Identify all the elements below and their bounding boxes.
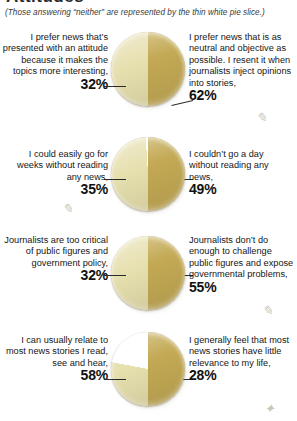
chart-2-pie-disc[interactable] bbox=[111, 137, 185, 211]
chart-1-pie[interactable] bbox=[110, 32, 188, 110]
chart-4-left-percent: 58% bbox=[2, 370, 108, 381]
chart-row-2: I could easily go for weeks without read… bbox=[0, 127, 297, 223]
chart-4-right-percent: 28% bbox=[189, 370, 295, 381]
chart-1-right-label: I prefer news that is as neutral and obj… bbox=[189, 32, 295, 89]
chart-2-right-label: I couldn’t go a day without reading any … bbox=[189, 149, 295, 183]
chart-row-1: I prefer news that’s presented with an a… bbox=[0, 30, 297, 127]
chart-3-right-label-block: Journalists don’t do enough to challenge… bbox=[189, 235, 295, 293]
chart-1-pie-disc[interactable] bbox=[111, 32, 185, 106]
chart-4-right-leader-line bbox=[104, 379, 126, 380]
chart-caption: (Those answering “neither” are represent… bbox=[5, 8, 295, 17]
chart-4-right-label: I generally feel that most news stories … bbox=[189, 335, 295, 369]
chart-1-left-label: I prefer news that’s presented with an a… bbox=[2, 32, 108, 78]
chart-row-3: Journalists are too critical of public f… bbox=[0, 223, 297, 323]
chart-3-left-percent: 32% bbox=[2, 270, 108, 281]
chart-3-left-label-block: Journalists are too critical of public f… bbox=[2, 235, 108, 282]
cropped-title-text: Attitudes bbox=[6, 0, 84, 7]
chart-3-right-label: Journalists don’t do enough to challenge… bbox=[189, 235, 295, 281]
chart-3-pie-disc[interactable] bbox=[111, 236, 185, 310]
chart-2-right-percent: 49% bbox=[189, 184, 295, 195]
chart-row-4: I can usually relate to most news storie… bbox=[0, 323, 297, 421]
decorative-mark-4: ✦ bbox=[264, 401, 275, 416]
chart-2-pie[interactable] bbox=[110, 137, 188, 215]
chart-2-right-label-block: I couldn’t go a day without reading any … bbox=[189, 149, 295, 196]
decorative-mark-1: ✎ bbox=[256, 110, 267, 125]
decorative-mark-3: ✎ bbox=[262, 303, 273, 318]
chart-1-right-label-block: I prefer news that is as neutral and obj… bbox=[189, 32, 295, 101]
chart-4-left-label-block: I can usually relate to most news storie… bbox=[2, 335, 108, 382]
chart-1-left-label-block: I prefer news that’s presented with an a… bbox=[2, 32, 108, 90]
chart-3-left-label: Journalists are too critical of public f… bbox=[2, 235, 108, 269]
chart-1-right-percent: 62% bbox=[189, 90, 295, 101]
chart-2-left-label-block: I could easily go for weeks without read… bbox=[2, 149, 108, 196]
chart-2-left-label: I could easily go for weeks without read… bbox=[2, 149, 108, 183]
chart-4-right-label-block: I generally feel that most news stories … bbox=[189, 335, 295, 382]
chart-1-left-percent: 32% bbox=[2, 79, 108, 90]
chart-4-pie-disc[interactable] bbox=[111, 332, 185, 406]
chart-2-right-leader-line bbox=[104, 179, 126, 180]
chart-4-pie[interactable] bbox=[110, 332, 188, 410]
pie-chart-list: I prefer news that’s presented with an a… bbox=[0, 30, 297, 421]
cropped-title-strip: Attitudes bbox=[0, 0, 297, 7]
chart-4-left-label: I can usually relate to most news storie… bbox=[2, 335, 108, 369]
chart-3-right-leader-line bbox=[104, 275, 126, 276]
chart-1-right-leader-line bbox=[104, 86, 126, 87]
chart-3-right-percent: 55% bbox=[189, 282, 295, 293]
chart-2-left-percent: 35% bbox=[2, 184, 108, 195]
decorative-mark-2: ✎ bbox=[62, 201, 73, 216]
